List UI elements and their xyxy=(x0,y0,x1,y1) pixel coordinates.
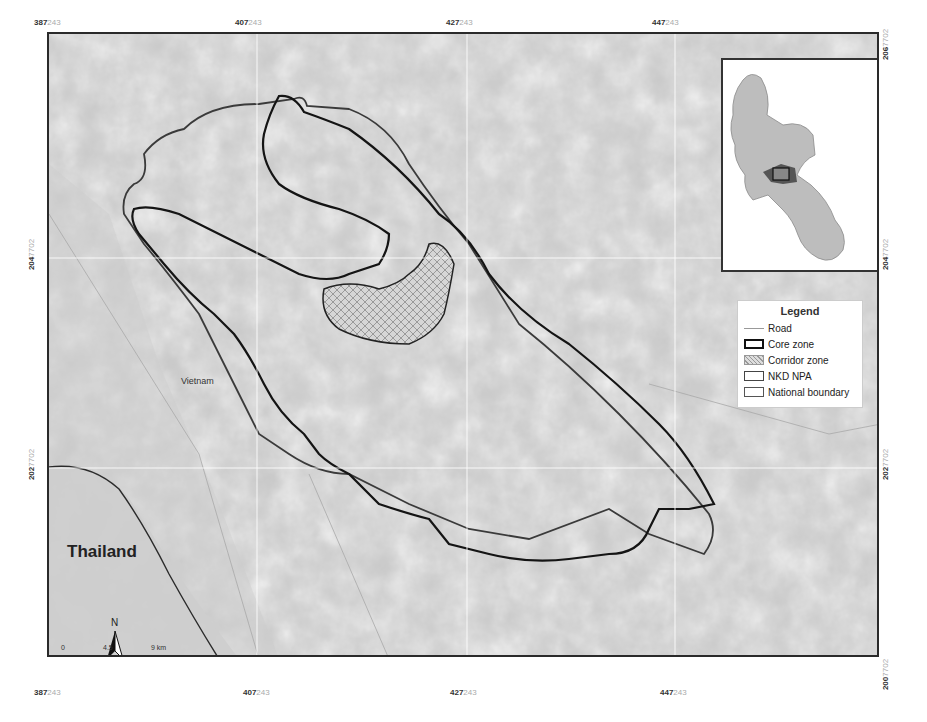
road-swatch-icon xyxy=(744,328,764,329)
inset-locator-map xyxy=(721,58,879,272)
legend-item-national-boundary: National boundary xyxy=(744,384,856,400)
legend-item-road: Road xyxy=(744,320,856,336)
place-label-vietnam: Vietnam xyxy=(181,376,214,386)
map-legend: Legend Road Core zone Corridor zone NKD … xyxy=(737,300,863,408)
x-tick-top-1: 387243 xyxy=(34,18,61,27)
scale-bar: 0 4.5 9 km xyxy=(61,644,181,657)
laos-outline xyxy=(723,60,877,270)
y-tick-left-1: 2047702 xyxy=(27,239,36,270)
legend-item-core-zone: Core zone xyxy=(744,336,856,352)
nkd-npa-swatch-icon xyxy=(744,371,764,381)
north-label: N xyxy=(111,617,118,628)
scale-mid: 4.5 xyxy=(103,644,113,651)
scale-end: 9 km xyxy=(151,644,166,651)
legend-item-nkd-npa: NKD NPA xyxy=(744,368,856,384)
y-tick-right-3: 2027702 xyxy=(881,449,890,480)
x-tick-bottom-3: 427243 xyxy=(450,688,477,697)
x-tick-bottom-1: 387243 xyxy=(34,688,61,697)
place-label-thailand: Thailand xyxy=(67,542,137,562)
scale-bar-line xyxy=(61,654,181,657)
study-area-box xyxy=(773,168,789,180)
x-tick-top-4: 447243 xyxy=(652,18,679,27)
y-tick-left-2: 2027702 xyxy=(27,449,36,480)
scale-zero: 0 xyxy=(61,644,65,651)
x-tick-top-2: 407243 xyxy=(235,18,262,27)
x-tick-bottom-2: 407243 xyxy=(243,688,270,697)
legend-title: Legend xyxy=(744,305,856,317)
national-boundary-swatch-icon xyxy=(744,387,764,397)
y-tick-right-2: 2047702 xyxy=(881,239,890,270)
core-zone-swatch-icon xyxy=(744,339,764,349)
y-tick-right-4: 2007702 xyxy=(881,659,890,690)
corridor-zone-swatch-icon xyxy=(744,355,764,365)
map-frame[interactable]: Thailand Vietnam Legend Road Core zone C… xyxy=(47,32,879,657)
x-tick-top-3: 427243 xyxy=(446,18,473,27)
x-tick-bottom-4: 447243 xyxy=(660,688,687,697)
legend-item-corridor-zone: Corridor zone xyxy=(744,352,856,368)
y-tick-right-1: 2067702 xyxy=(881,29,890,60)
